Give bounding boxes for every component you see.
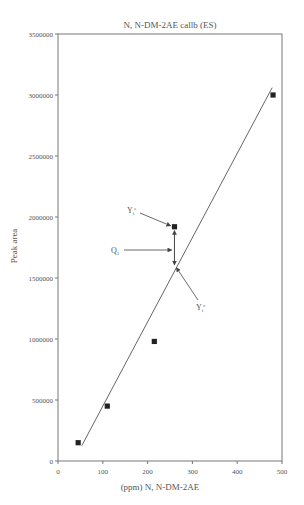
annotation-yie: Yie [127,206,137,216]
data-point [105,404,110,409]
regression-line [82,88,272,446]
x-tick-label: 200 [142,468,153,476]
x-tick-label: 100 [98,468,109,476]
x-tick-label: 500 [277,468,288,476]
plot-area [76,88,276,446]
data-point [270,92,275,97]
data-point [172,224,177,229]
data-point [152,339,157,344]
annotations: YieQ1Yic [111,206,206,313]
y-axis-label: Peak area [9,229,19,264]
chart-title: N, N-DM-2AE callb (ES) [124,20,217,30]
y-tick-label: 2000000 [29,214,54,222]
arrow-yie [140,213,170,226]
axes: 0500000100000015000002000000250000030000… [29,31,288,477]
plot-frame [58,34,282,461]
arrow-yic [176,268,198,300]
y-tick-label: 1500000 [29,275,54,283]
y-tick-label: 3500000 [29,31,54,39]
calibration-chart: 0500000100000015000002000000250000030000… [0,0,304,505]
annotation-q1: Q1 [111,246,120,256]
y-tick-label: 1000000 [29,336,54,344]
y-tick-label: 3000000 [29,92,54,100]
x-tick-label: 400 [232,468,243,476]
x-tick-label: 300 [187,468,198,476]
y-tick-label: 0 [50,458,54,466]
data-point [76,440,81,445]
y-tick-label: 2500000 [29,153,54,161]
x-tick-label: 0 [56,468,60,476]
x-axis-label: (ppm) N, N-DM-2AE [121,482,200,492]
annotation-yic: Yic [196,303,206,313]
y-tick-label: 500000 [32,397,54,405]
